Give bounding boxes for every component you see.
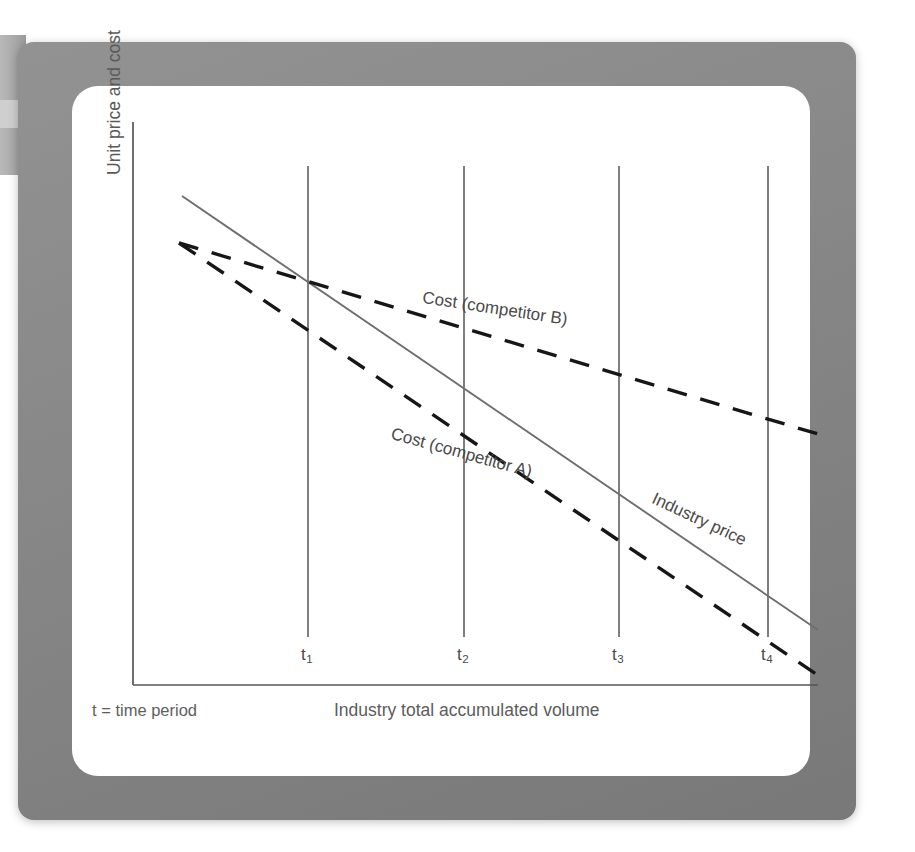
x-axis-title: Industry total accumulated volume <box>334 700 600 721</box>
figure-white-card <box>72 86 810 776</box>
x-tick-label-t4: t4 <box>761 645 772 665</box>
y-axis-title-wrapper: Unit price and cost <box>104 30 124 175</box>
x-tick-label-t3: t3 <box>612 645 623 665</box>
page-root: Unit price and cost Industry total accum… <box>0 0 915 852</box>
page-edge-bleed-highlight <box>0 100 20 128</box>
x-tick-label-t2: t2 <box>457 645 468 665</box>
y-axis-title: Unit price and cost <box>104 30 124 175</box>
x-tick-label-t1: t1 <box>301 645 312 665</box>
figure-footnote: t = time period <box>92 701 197 720</box>
